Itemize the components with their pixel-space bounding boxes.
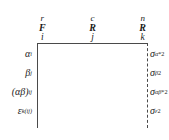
variance-superscript: *2 [158, 50, 164, 57]
column-header-error: n R k [139, 14, 146, 43]
column-index-label: j [91, 33, 94, 43]
effect-label-alpha: αi [0, 44, 34, 63]
table-top-rule [37, 43, 148, 44]
effect-subscript: j [30, 69, 32, 76]
table-left-rule [37, 43, 38, 128]
ems-table-figure: r F i c R j n R k αi βj (αβ)ij εk(ij) [0, 0, 169, 140]
effect-label-beta: βj [0, 63, 34, 82]
variance-component-alpha-beta: σαβ*2 [150, 82, 169, 101]
column-header-factor-b: c R j [89, 14, 96, 43]
variance-superscript: 2 [157, 107, 160, 114]
variance-component-group: σα*2 σβ2 σαβ*2 σε2 [150, 44, 169, 128]
effect-subscript: k(ij) [22, 107, 32, 114]
variance-component-alpha: σα*2 [150, 44, 169, 63]
variance-component-epsilon: σε2 [150, 101, 169, 120]
column-header-group: r F i c R j n R k [37, 3, 148, 43]
effect-label-group: αi βj (αβ)ij εk(ij) [0, 44, 34, 128]
column-index-label: i [41, 33, 44, 43]
effect-subscript: ij [29, 88, 32, 95]
effect-label-epsilon: εk(ij) [0, 101, 34, 120]
variance-component-beta: σβ2 [150, 63, 169, 82]
variance-superscript: *2 [161, 88, 167, 95]
effect-symbol: αβ [15, 86, 25, 97]
effect-label-alpha-beta: (αβ)ij [0, 82, 34, 101]
effect-subscript: i [30, 50, 32, 57]
table-right-dashed-rule [147, 43, 148, 128]
column-index-label: k [141, 33, 145, 43]
variance-superscript: 2 [158, 69, 161, 76]
column-header-factor-a: r F i [39, 14, 46, 43]
